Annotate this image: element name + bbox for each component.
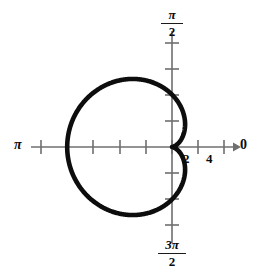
pi-over-2-numerator: π (161, 8, 183, 23)
three-pi-over-2-numerator: 3π (158, 238, 186, 253)
axis-label-angle-pi-over-2: π 2 (161, 8, 183, 38)
axis-label-angle-pi: π (14, 138, 22, 152)
polar-plot-canvas (0, 0, 261, 274)
three-pi-over-2-denominator: 2 (158, 254, 186, 269)
axis-label-angle-zero: 0 (240, 138, 247, 152)
polar-cardioid-figure: 0 π π 2 3π 2 2 4 (0, 0, 261, 274)
pi-over-2-denominator: 2 (161, 24, 183, 39)
axis-label-angle-3pi-over-2: 3π 2 (158, 238, 186, 268)
radial-tick-label-2: 2 (183, 152, 190, 165)
radial-tick-label-4: 4 (206, 152, 213, 165)
